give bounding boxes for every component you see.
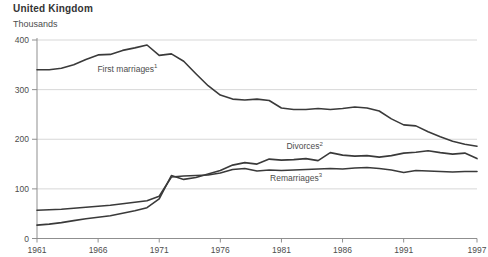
series-label-remarriages: Remarriages3 bbox=[270, 172, 323, 183]
x-tick-label-1986: 1986 bbox=[333, 245, 352, 255]
series-label-sup-remarriages: 3 bbox=[319, 172, 323, 178]
y-tick-label-300: 300 bbox=[15, 85, 29, 95]
series-label-first-marriages: First marriages1 bbox=[97, 63, 158, 74]
series-line-divorces bbox=[37, 151, 477, 225]
x-tick-label-1961: 1961 bbox=[28, 245, 47, 255]
series-line-first-marriages bbox=[37, 45, 477, 146]
y-tick-label-0: 0 bbox=[24, 234, 29, 244]
x-tick-label-1976: 1976 bbox=[211, 245, 230, 255]
y-tick-label-100: 100 bbox=[15, 184, 29, 194]
x-tick-label-1991: 1991 bbox=[394, 245, 413, 255]
series-label-sup-first-marriages: 1 bbox=[154, 63, 158, 69]
x-tick-label-1981: 1981 bbox=[272, 245, 291, 255]
y-tick-label-400: 400 bbox=[15, 35, 29, 45]
x-tick-label-1971: 1971 bbox=[150, 245, 169, 255]
x-tick-label-1966: 1966 bbox=[89, 245, 108, 255]
series-label-divorces: Divorces2 bbox=[286, 141, 323, 152]
y-tick-label-200: 200 bbox=[15, 134, 29, 144]
series-label-sup-divorces: 2 bbox=[320, 141, 324, 147]
x-tick-label-1997: 1997 bbox=[468, 245, 487, 255]
marriages-divorces-chart: 0100200300400196119661971197619811986199… bbox=[0, 0, 488, 257]
